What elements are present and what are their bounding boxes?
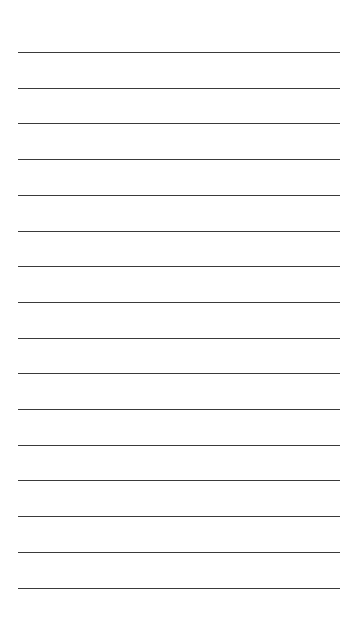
ruled-line	[18, 516, 340, 517]
ruled-line	[18, 588, 340, 589]
ruled-line	[18, 52, 340, 53]
ruled-line	[18, 302, 340, 303]
ruled-line	[18, 88, 340, 89]
ruled-line	[18, 552, 340, 553]
ruled-line	[18, 195, 340, 196]
ruled-line	[18, 373, 340, 374]
ruled-line	[18, 480, 340, 481]
ruled-line	[18, 266, 340, 267]
ruled-line	[18, 338, 340, 339]
ruled-line	[18, 409, 340, 410]
ruled-line	[18, 123, 340, 124]
ruled-line	[18, 159, 340, 160]
ruled-line	[18, 231, 340, 232]
ruled-line	[18, 445, 340, 446]
